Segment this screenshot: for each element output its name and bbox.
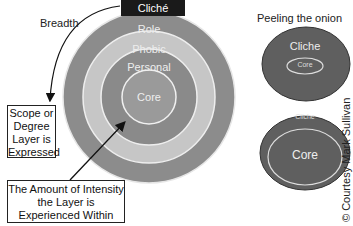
onion-bottom-core-label: Core	[280, 148, 330, 162]
layer-label-role: Role	[129, 23, 169, 35]
scope-line-3: Layer is	[8, 133, 55, 146]
layer-label-personal: Personal	[119, 61, 179, 73]
cliche-label-box: Cliché	[121, 0, 185, 16]
layer-label-phobic: Phobic	[124, 43, 174, 55]
layer-label-core: Core	[129, 91, 169, 103]
breadth-label: Breadth	[40, 17, 79, 29]
credit-text: © Courtesy Mark Sullivan	[340, 98, 352, 222]
cliche-label: Cliché	[138, 2, 169, 14]
onion-title: Peeling the onion	[257, 12, 342, 24]
onion-top-outer-label: Cliche	[280, 40, 330, 52]
scope-line-2: Degree	[8, 120, 55, 133]
intensity-line-2: the Layer is	[8, 196, 124, 209]
scope-line-4: Expressed	[8, 146, 55, 159]
intensity-line-1: The Amount of Intensity	[8, 183, 124, 196]
intensity-line-3: Experienced Within	[8, 209, 124, 222]
intensity-box: The Amount of Intensity the Layer is Exp…	[7, 180, 125, 223]
scope-box: Scope or Degree Layer is Expressed	[7, 105, 56, 158]
scope-line-1: Scope or	[8, 107, 55, 120]
onion-top-core-label: Core	[290, 61, 320, 68]
onion-bottom-outer-label: Cliche	[285, 113, 325, 120]
